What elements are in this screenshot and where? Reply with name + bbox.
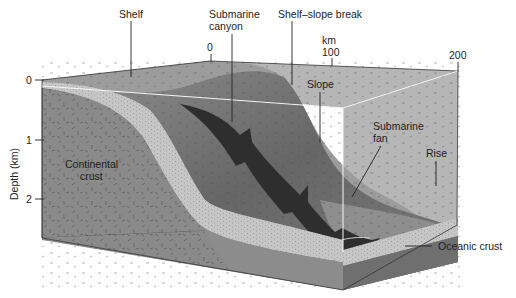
label-submarine-fan-2: fan — [373, 132, 388, 144]
label-shelf-slope-break: Shelf–slope break — [278, 8, 363, 20]
continental-margin-diagram: 0 1 2 Depth (km) 0 km 100 200 Shelf Subm… — [0, 0, 516, 298]
label-shelf: Shelf — [119, 8, 143, 20]
label-submarine-canyon-1: Submarine — [209, 8, 260, 20]
label-continental-crust-2: crust — [80, 170, 103, 182]
label-rise: Rise — [426, 147, 447, 159]
depth-axis-title: Depth (km) — [8, 148, 20, 200]
label-submarine-fan-1: Submarine — [373, 120, 424, 132]
depth-tick-0: 0 — [26, 74, 32, 86]
label-continental-crust-1: Continental — [65, 158, 118, 170]
distance-tick-200: 200 — [449, 49, 467, 61]
distance-unit: km — [322, 34, 336, 46]
depth-tick-1: 1 — [26, 134, 32, 146]
label-submarine-canyon-2: canyon — [209, 20, 243, 32]
label-oceanic-crust: Oceanic crust — [438, 240, 502, 252]
depth-axis: 0 1 2 Depth (km) — [8, 74, 44, 205]
distance-tick-100: 100 — [322, 46, 340, 58]
label-slope: Slope — [307, 78, 334, 90]
distance-tick-0: 0 — [207, 41, 213, 53]
depth-tick-2: 2 — [26, 193, 32, 205]
